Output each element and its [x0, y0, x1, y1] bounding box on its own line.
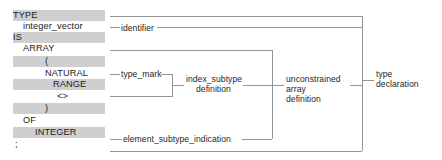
- code-line-semicolon: ;: [13, 139, 105, 150]
- code-line-array: ARRAY: [13, 43, 105, 54]
- label-unconstrained-array-definition-line1: unconstrained: [286, 74, 341, 84]
- label-unconstrained-array-definition-line3: definition: [286, 94, 321, 104]
- label-type-mark: type_mark: [121, 69, 162, 79]
- label-element-subtype-indication: element_subtype_indication: [123, 134, 231, 144]
- code-line-close-paren: ): [13, 103, 105, 114]
- label-identifier: identifier: [121, 23, 154, 33]
- label-index-subtype-definition-line2: definition: [196, 84, 231, 94]
- code-line-open-paren: (: [13, 56, 105, 67]
- label-type-declaration-line1: type: [376, 69, 392, 79]
- code-line-of: OF: [13, 115, 105, 126]
- code-line-range: RANGE: [13, 79, 105, 90]
- label-type-declaration-line2: declaration: [376, 79, 419, 89]
- label-unconstrained-array-definition-line2: array: [286, 84, 306, 94]
- syntax-diagram-figure: TYPE integer_vector IS ARRAY ( NATURAL R…: [0, 0, 442, 160]
- code-line-integer: INTEGER: [13, 127, 105, 138]
- code-listing: TYPE integer_vector IS ARRAY ( NATURAL R…: [0, 0, 120, 160]
- code-line-is: IS: [13, 32, 105, 43]
- code-line-identifier: integer_vector: [13, 21, 105, 32]
- label-index-subtype-definition-line1: index_subtype: [186, 74, 242, 84]
- code-line-natural: NATURAL: [13, 68, 105, 79]
- code-line-type: TYPE: [13, 10, 105, 21]
- code-line-box: <>: [13, 91, 105, 102]
